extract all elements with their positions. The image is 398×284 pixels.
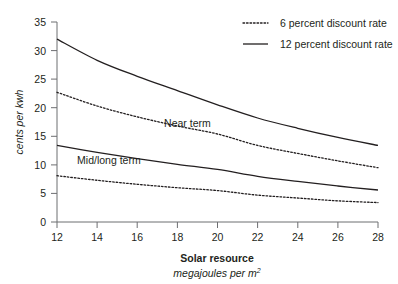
series-annotation-near-term: Near term: [164, 117, 211, 129]
x-axis-tick-labels: 12 14 16 18 20 22 24 26 28: [51, 231, 384, 243]
y-axis-title: cents per kwh: [13, 89, 25, 154]
y-tick-label: 10: [34, 159, 46, 171]
legend-label-6-percent: 6 percent discount rate: [280, 17, 387, 29]
x-tick-label: 18: [172, 231, 184, 243]
y-tick-label: 25: [34, 73, 46, 85]
y-tick-label: 15: [34, 130, 46, 142]
x-tick-label: 16: [131, 231, 143, 243]
x-axis-subtitle-exponent: 2: [256, 267, 261, 274]
chart-container: 0 5 10 15 20 25 30 35 12 14 16 18: [0, 0, 398, 284]
y-tick-label: 30: [34, 45, 46, 57]
x-tick-label: 28: [372, 231, 384, 243]
x-axis-subtitle: megajoules per m2: [173, 267, 260, 279]
y-tick-label: 35: [34, 16, 46, 28]
x-axis-title: Solar resource: [180, 252, 254, 264]
x-tick-label: 22: [252, 231, 264, 243]
solar-resource-cost-chart: 0 5 10 15 20 25 30 35 12 14 16 18: [0, 0, 398, 284]
x-tick-label: 24: [292, 231, 304, 243]
x-tick-label: 12: [51, 231, 63, 243]
x-tick-label: 20: [212, 231, 224, 243]
y-tick-label: 5: [40, 187, 46, 199]
legend-label-12-percent: 12 percent discount rate: [280, 38, 393, 50]
x-axis-subtitle-text: megajoules per m: [173, 267, 257, 279]
x-tick-label: 14: [91, 231, 103, 243]
y-tick-label: 20: [34, 102, 46, 114]
y-tick-label: 0: [40, 216, 46, 228]
series-annotation-mid-long-term: Mid/long term: [77, 154, 141, 166]
x-tick-label: 26: [332, 231, 344, 243]
